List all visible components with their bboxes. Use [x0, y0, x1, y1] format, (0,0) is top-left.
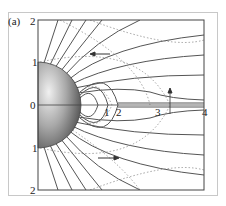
panel-label: (a) — [8, 15, 21, 28]
field-line-diagram: (a) 2 1 0 1 2 1 2 3 4 — [0, 0, 226, 206]
arrow-left-icon — [90, 52, 110, 56]
x-tick-label: 1 — [104, 106, 110, 118]
y-tick-label: 1 — [32, 142, 38, 154]
arrow-right-icon — [98, 156, 119, 160]
x-tick-label: 4 — [202, 106, 208, 118]
y-tick-label: 2 — [30, 15, 36, 27]
y-tick-label: 1 — [32, 56, 38, 68]
y-tick-label: 0 — [30, 99, 36, 111]
x-tick-label: 3 — [155, 106, 161, 118]
arrow-up-icon — [168, 88, 172, 114]
y-tick-label: 2 — [30, 184, 36, 196]
x-tick-label: 2 — [116, 106, 122, 118]
